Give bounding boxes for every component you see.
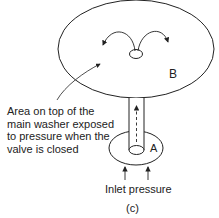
valve-pressure-diagram: B A Area on top of the main washer expos… (0, 0, 219, 218)
flow-arrow-right-icon (138, 31, 168, 51)
annotation-line-1: Area on top of the (7, 105, 114, 118)
region-a-label: A (150, 142, 157, 155)
inlet-pressure-label: Inlet pressure (105, 183, 172, 196)
region-b-label: B (169, 68, 177, 81)
annotation-text: Area on top of the main washer exposed t… (7, 105, 114, 155)
orifice-ellipse (130, 50, 143, 59)
tube-bottom-ellipse (129, 146, 144, 155)
annotation-line-4: valve is closed (7, 143, 114, 156)
flow-arrow-left-icon (103, 32, 135, 51)
figure-caption: (c) (126, 202, 139, 215)
annotation-line-3: to pressure when the (7, 130, 114, 143)
annotation-line-2: main washer exposed (7, 118, 114, 131)
